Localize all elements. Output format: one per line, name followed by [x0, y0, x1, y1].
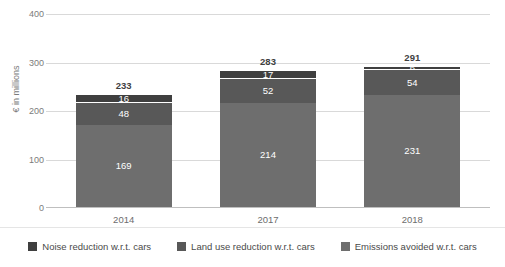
bar-segment-value: 54 — [407, 78, 418, 88]
plot-area: 1648169233 1752214283 654231291 — [46, 14, 490, 208]
gridline-400 — [46, 14, 490, 15]
bar-segment-value: 214 — [260, 150, 276, 160]
bar-segment-value: 231 — [404, 146, 420, 156]
bar-segment[interactable]: 231 — [364, 95, 460, 207]
bar-total-value: 291 — [364, 52, 460, 63]
legend-label: Noise reduction w.r.t. cars — [42, 241, 151, 252]
x-axis-categories: 2014 2017 2018 — [46, 210, 490, 228]
bar-stack: 1752214 — [220, 70, 316, 207]
bar-stack: 654231 — [364, 66, 460, 207]
bar-segment[interactable]: 48 — [76, 102, 172, 125]
bar-segment[interactable]: 16 — [76, 94, 172, 102]
bar-segment[interactable]: 52 — [220, 78, 316, 103]
y-tick-200: 200 — [4, 106, 44, 116]
x-tick-2014: 2014 — [76, 214, 172, 225]
bar-segment-value: 169 — [116, 161, 132, 171]
legend-item-noise-reduction[interactable]: Noise reduction w.r.t. cars — [28, 241, 151, 252]
stacked-bar-chart: € in millions 400 300 200 100 0 16481692… — [0, 0, 505, 267]
bar-segment[interactable]: 214 — [220, 103, 316, 207]
y-tick-100: 100 — [4, 155, 44, 165]
bar-segment[interactable]: 17 — [220, 70, 316, 78]
legend-label: Land use reduction w.r.t. cars — [191, 241, 315, 252]
legend-divider — [0, 227, 505, 228]
chart-legend: Noise reduction w.r.t. cars Land use red… — [0, 236, 505, 256]
bar-segment[interactable]: 169 — [76, 125, 172, 207]
y-tick-400: 400 — [4, 9, 44, 19]
x-tick-2017: 2017 — [220, 214, 316, 225]
y-tick-0: 0 — [4, 203, 44, 213]
legend-swatch-icon — [177, 242, 186, 251]
legend-swatch-icon — [28, 242, 37, 251]
x-tick-2018: 2018 — [364, 214, 460, 225]
bar-total-value: 233 — [76, 80, 172, 91]
y-tick-300: 300 — [4, 58, 44, 68]
bar-total-value: 283 — [220, 56, 316, 67]
bar-group-2017[interactable]: 1752214283 — [220, 70, 316, 207]
legend-label: Emissions avoided w.r.t. cars — [355, 241, 477, 252]
legend-item-land-use-reduction[interactable]: Land use reduction w.r.t. cars — [177, 241, 315, 252]
legend-item-emissions-avoided[interactable]: Emissions avoided w.r.t. cars — [341, 241, 477, 252]
bar-segment-value: 52 — [263, 86, 274, 96]
bar-segment[interactable]: 54 — [364, 69, 460, 95]
bar-group-2018[interactable]: 654231291 — [364, 66, 460, 207]
legend-swatch-icon — [341, 242, 350, 251]
bar-group-2014[interactable]: 1648169233 — [76, 94, 172, 207]
bar-stack: 1648169 — [76, 94, 172, 207]
y-axis-ticks: 400 300 200 100 0 — [0, 14, 44, 208]
x-axis-line — [46, 207, 490, 208]
bar-segment-value: 48 — [118, 109, 129, 119]
